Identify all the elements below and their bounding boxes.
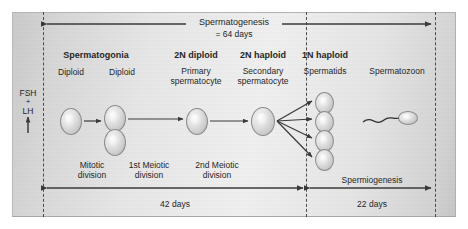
stage-1-ploidy: 2N diploid [174, 50, 218, 60]
cell-primary-spermatocyte [186, 108, 208, 135]
stage-4-name-line1: Spermatozoon [369, 66, 424, 76]
bottom-axis-0-duration: 42 days [160, 199, 190, 209]
division-1-line2: division [135, 170, 163, 180]
cell-spermatogonium-2 [104, 105, 126, 132]
division-0-line2: division [78, 170, 106, 180]
stage-3-ploidy: 1N haploid [302, 50, 348, 60]
cell-spermatid-4 [315, 149, 334, 171]
cell-spermatozoon-head [398, 111, 418, 125]
divider-right [435, 12, 436, 217]
stage-0-name2: Diploid [109, 67, 135, 77]
cell-spermatogonium-1 [60, 108, 82, 135]
stage-3-name-line1: Spermatids [304, 66, 347, 76]
stage-2-ploidy: 2N haploid [240, 50, 286, 60]
cell-spermatogonium-3 [104, 129, 126, 156]
stage-2-name-line1: Secondary [243, 66, 284, 76]
divider-left [43, 12, 44, 217]
bottom-axis-1-duration: 22 days [357, 199, 387, 209]
division-1-line1: 1st Meiotic [129, 160, 170, 170]
stage-0-name: Diploid [58, 67, 84, 77]
divider-middle [306, 12, 307, 217]
stage-1-name-line1: Primary [181, 66, 210, 76]
top-axis-duration: = 64 days [215, 29, 252, 39]
stage-1-name-line2: spermatocyte [170, 76, 221, 86]
division-0-line1: Mitotic [80, 160, 105, 170]
division-2-line2: division [203, 170, 231, 180]
lh-label: LH [23, 106, 34, 116]
bottom-axis-1-label: Spermiogenesis [342, 175, 403, 185]
plus-sign: + [26, 97, 31, 106]
cell-secondary-spermatocyte [251, 107, 275, 136]
division-2-line1: 2nd Meiotic [195, 160, 238, 170]
spermatogenesis-figure: Spermatogenesis = 64 days FSH + LH Sperm… [0, 0, 468, 229]
stage-2-name-line2: spermatocyte [237, 76, 288, 86]
top-axis-label: Spermatogenesis [199, 17, 269, 27]
stage-0-ploidy: Spermatogonia [63, 50, 129, 60]
